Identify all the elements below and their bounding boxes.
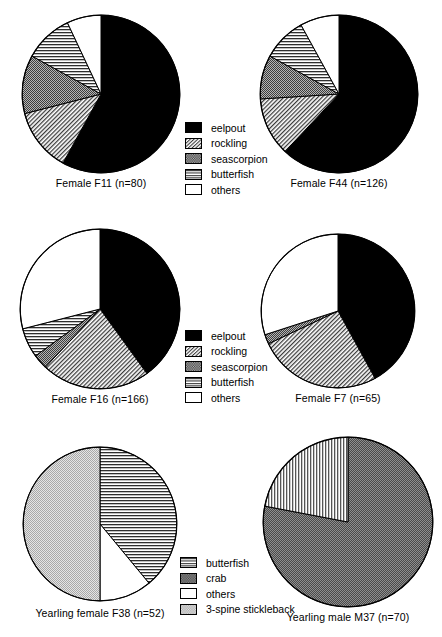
caption-f44: Female F44 (n=126)	[290, 178, 387, 189]
legend-item-others: others	[185, 390, 268, 406]
legend-swatch-3-spine-stickleback	[180, 604, 197, 615]
legend-swatch-others	[185, 392, 202, 403]
legend-label: rockling	[211, 138, 247, 149]
legend-label: eelpout	[211, 123, 245, 134]
legend-swatch-butterfish	[180, 557, 197, 568]
legend-label: rockling	[211, 346, 247, 357]
panel-m37: Yearling male M37 (n=70)	[262, 436, 434, 628]
pie-f11	[18, 14, 184, 174]
panel-f11: Female F11 (n=80)	[18, 14, 184, 194]
legend-swatch-seascorpion	[185, 153, 202, 164]
panel-f7: Female F7 (n=65)	[258, 233, 418, 411]
legend-item-eelpout: eelpout	[185, 328, 268, 344]
pie-f38	[20, 446, 180, 602]
legend-label: butterfish	[211, 169, 254, 180]
legend-label: others	[211, 393, 240, 404]
caption-f7: Female F7 (n=65)	[295, 393, 380, 404]
legend-swatch-rockling	[185, 346, 202, 357]
legend-swatch-crab	[180, 573, 197, 584]
caption-m37: Yearling male M37 (n=70)	[287, 612, 410, 623]
legend-label: others	[211, 185, 240, 196]
pie-m37	[262, 436, 434, 608]
panel-f44: Female F44 (n=126)	[256, 14, 422, 194]
caption-f38: Yearling female F38 (n=52)	[35, 608, 164, 619]
legend-item-seascorpion: seascorpion	[185, 359, 268, 375]
legend-swatch-eelpout	[185, 330, 202, 341]
pie-chart-figure: Female F11 (n=80) eelpoutrocklingseascor…	[0, 0, 442, 637]
caption-f16: Female F16 (n=166)	[51, 394, 148, 405]
legend-label: crab	[206, 573, 226, 584]
legend-label: butterfish	[211, 377, 254, 388]
caption-f11: Female F11 (n=80)	[56, 178, 147, 189]
legend-item-rockling: rockling	[185, 344, 268, 360]
panel-f38: Yearling female F38 (n=52)	[20, 446, 180, 628]
legend-item-butterfish: butterfish	[185, 375, 268, 391]
pie-f16	[16, 228, 184, 390]
legend-label: eelpout	[211, 331, 245, 342]
legend-swatch-rockling	[185, 138, 202, 149]
legend-swatch-butterfish	[185, 169, 202, 180]
pie-f7	[258, 233, 418, 389]
pie-f44	[256, 14, 422, 174]
legend-label: butterfish	[206, 558, 249, 569]
legend-swatch-others	[180, 588, 197, 599]
legend-swatch-butterfish	[185, 377, 202, 388]
panel-f16: Female F16 (n=166)	[16, 228, 184, 408]
pie-slice-3-spine-stickleback	[23, 447, 100, 601]
legend-middle: eelpoutrocklingseascorpionbutterfishothe…	[185, 328, 268, 406]
legend-swatch-others	[185, 184, 202, 195]
legend-label: others	[206, 589, 235, 600]
legend-swatch-seascorpion	[185, 361, 202, 372]
legend-swatch-eelpout	[185, 122, 202, 133]
